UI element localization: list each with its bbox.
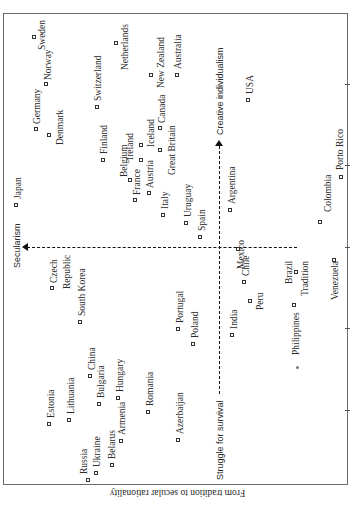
label-india: India xyxy=(229,309,239,329)
stray-dot xyxy=(296,366,299,369)
label-estonia: Estonia xyxy=(46,390,56,419)
label-iceland: Iceland xyxy=(146,119,156,147)
point-south-korea xyxy=(78,320,82,324)
label-azerbaijan: Azerbaijan xyxy=(175,392,185,434)
point-azerbaijan xyxy=(176,438,180,442)
label-france: France xyxy=(132,169,142,195)
label-austria: Austria xyxy=(145,160,155,188)
point-spain xyxy=(198,235,202,239)
label-germany: Germany xyxy=(32,89,42,124)
point-peru xyxy=(248,299,252,303)
label-struggle-for-survival: Struggle for survival xyxy=(215,400,225,480)
label-spain: Spain xyxy=(197,209,207,231)
point-russia xyxy=(86,478,90,482)
label-argentina: Argentina xyxy=(227,166,237,204)
axis-tick xyxy=(345,165,350,166)
horizontal-dashed-axis xyxy=(27,247,297,248)
point-germany xyxy=(34,127,38,131)
point-belarus xyxy=(110,463,114,467)
label-usa: USA xyxy=(245,75,255,94)
point-ukraine xyxy=(94,471,98,475)
point-argentina xyxy=(228,208,232,212)
point-great-britain xyxy=(158,148,162,152)
arrow-up-icon xyxy=(215,140,223,146)
label-japan: Japan xyxy=(13,177,23,199)
label-finland: Finland xyxy=(99,125,109,154)
point-chile xyxy=(242,280,246,284)
point-denmark xyxy=(47,133,51,137)
axis-tick xyxy=(345,328,350,329)
point-bulgaria xyxy=(97,402,101,406)
point-china xyxy=(88,374,92,378)
axis-tick xyxy=(345,410,350,411)
point-italy xyxy=(161,213,165,217)
point-austria xyxy=(147,191,151,195)
point-lithuania xyxy=(67,418,71,422)
label-south-korea: South Korea xyxy=(77,268,87,316)
label-russia: Russia xyxy=(79,449,89,474)
x-axis-caption: From tradition to secular rationality xyxy=(0,488,355,498)
point-romania xyxy=(146,410,150,414)
point-czech-republic xyxy=(50,286,54,290)
label-ukraine: Ukraine xyxy=(92,436,102,467)
label-switzerland: Switzerland xyxy=(93,56,103,101)
label-hungary: Hungary xyxy=(115,359,125,392)
label-peru: Peru xyxy=(255,293,265,310)
point-new-zealand xyxy=(149,73,153,77)
label-belarus: Belarus xyxy=(107,430,117,459)
label-poland: Poland xyxy=(190,312,200,338)
label-secularism: Secularism xyxy=(12,223,22,268)
arrow-left-icon xyxy=(22,243,28,251)
point-usa xyxy=(246,98,250,102)
label-norway: Norway xyxy=(43,49,53,80)
label-romania: Romania xyxy=(145,372,155,406)
label-portugal: Portugal xyxy=(175,291,185,323)
point-colombia xyxy=(318,220,322,224)
point-philippines xyxy=(292,303,296,307)
point-netherlands xyxy=(114,41,118,45)
point-estonia xyxy=(47,422,51,426)
label-italy: Italy xyxy=(160,192,170,209)
point-poland xyxy=(191,342,195,346)
point-ireland xyxy=(139,158,143,162)
point-portugal xyxy=(176,327,180,331)
label-porto-rico: Porto Rico xyxy=(335,129,345,170)
axis-tick xyxy=(345,247,350,248)
point-hungary xyxy=(116,396,120,400)
label-canada: Canada xyxy=(157,95,167,124)
label-new-zealand: New Zealand xyxy=(156,37,166,88)
point-australia xyxy=(175,73,179,77)
label-philippines: Philippines xyxy=(291,312,301,355)
point-canada xyxy=(158,126,162,130)
point-france xyxy=(133,198,137,202)
label-lithuania: Lithuania xyxy=(66,378,76,414)
point-porto-rico xyxy=(339,175,343,179)
point-iceland xyxy=(139,143,143,147)
vertical-dashed-axis xyxy=(219,146,220,394)
point-switzerland xyxy=(95,105,99,109)
label-great-britain: Great Britain xyxy=(167,125,177,175)
label-republic: Republic xyxy=(62,255,72,289)
label-brazil: Brazil xyxy=(284,261,294,284)
label-australia: Australia xyxy=(173,34,183,69)
label-uruguay: Uruguay xyxy=(183,184,193,217)
axis-tick xyxy=(345,84,350,85)
label-sweden: Sweden xyxy=(37,20,47,50)
label-chile: Chile xyxy=(241,255,251,276)
point-india xyxy=(230,333,234,337)
label-denmark: Denmark xyxy=(55,110,65,145)
point-norway xyxy=(44,82,48,86)
point-brazil xyxy=(294,270,298,274)
point-armenia xyxy=(119,439,123,443)
label-czech: Czech xyxy=(49,259,59,283)
label-netherlands: Netherlands xyxy=(120,24,130,70)
point-japan xyxy=(14,203,18,207)
label-bulgaria: Bulgaria xyxy=(96,365,106,398)
point-uruguay xyxy=(184,221,188,225)
label-creative-individualism: Creative individualism xyxy=(215,47,225,135)
point-sweden xyxy=(32,35,36,39)
label-colombia: Colombia xyxy=(323,175,333,212)
label-venezuela: Venezuela xyxy=(330,261,340,300)
label-tradition: Tradition xyxy=(300,261,310,296)
label-armenia: Armenia xyxy=(117,402,127,435)
